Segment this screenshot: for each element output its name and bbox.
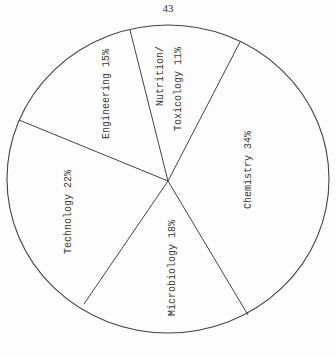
divider-chemistry-microbiology (168, 181, 248, 315)
label-engineering: Engineering 15% (101, 49, 112, 139)
label-chemistry: Chemistry 34% (243, 131, 254, 209)
divider-technology-engineering (19, 120, 168, 181)
pie-chart: Chemistry 34% Microbiology 18% Technolog… (0, 0, 336, 357)
label-microbiology: Microbiology 18% (167, 220, 178, 316)
label-nutrition-line2: Toxicology 11% (173, 47, 184, 131)
label-technology: Technology 22% (63, 170, 74, 254)
divider-microbiology-technology (84, 181, 168, 304)
label-nutrition-line1: Nutrition/ (155, 46, 166, 106)
